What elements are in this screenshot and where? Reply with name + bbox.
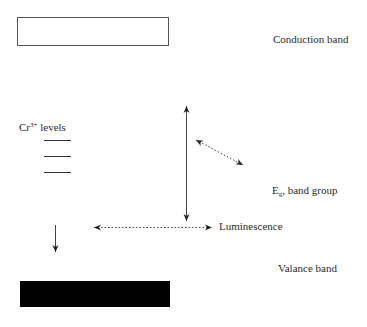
luminescence-label: Luminescence [219,220,283,233]
diagonal-dotted-arrow-icon [196,140,243,165]
luminescence-text: Luminescence [219,220,283,232]
cr-levels-suffix: levels [37,121,65,133]
cr-levels-label: Cr3+ levels [19,121,66,134]
valance-band-box [20,281,170,307]
cr-levels-prefix: Cr [19,121,30,133]
conduction-band-label: Conduction band [273,33,348,46]
diagram-svg [0,0,367,327]
band-diagram: Conduction band Cr3+ levels Eg, band gro… [0,0,367,327]
eg-suffix: , band group [282,184,337,196]
valance-band-label: Valance band [278,262,337,275]
valance-band-text: Valance band [278,262,337,274]
eg-main: E [272,184,279,196]
conduction-band-text: Conduction band [273,33,348,45]
conduction-band-box [18,18,169,46]
band-gap-label: Eg, band group [272,184,338,197]
